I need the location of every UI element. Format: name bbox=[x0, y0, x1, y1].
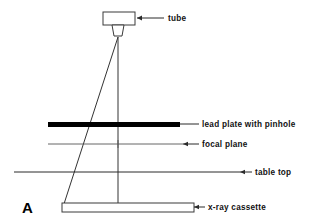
lead-plate-assembly bbox=[48, 122, 180, 127]
diagram-canvas: tube lead plate with pinhole focal plane… bbox=[0, 0, 326, 224]
cassette-leader-arrowhead-icon bbox=[194, 205, 199, 209]
panel-letter: A bbox=[22, 199, 33, 216]
pinhole-radiography-diagram: tube lead plate with pinhole focal plane… bbox=[0, 0, 326, 224]
table-top-leader-arrowhead-icon bbox=[240, 170, 245, 174]
focal-plane-leader-arrowhead-icon bbox=[183, 142, 188, 146]
focal-plane-assembly bbox=[48, 140, 183, 148]
table-top-label: table top bbox=[255, 168, 291, 177]
diagram-labels: tube lead plate with pinhole focal plane… bbox=[22, 14, 296, 216]
tube-housing-body bbox=[103, 12, 135, 25]
lead-plate-bar bbox=[48, 122, 180, 127]
tube-label: tube bbox=[168, 14, 186, 23]
focal-plane-label: focal plane bbox=[202, 140, 248, 149]
cassette-assembly bbox=[62, 203, 194, 212]
lead-plate-label: lead plate with pinhole bbox=[202, 120, 296, 129]
leader-lines bbox=[137, 16, 252, 210]
tube-assembly bbox=[103, 12, 135, 36]
cassette-label: x-ray cassette bbox=[208, 203, 266, 212]
cassette-rectangle bbox=[62, 203, 194, 212]
tube-collimator-neck bbox=[112, 25, 124, 36]
tube-leader-arrowhead-icon bbox=[137, 16, 142, 21]
